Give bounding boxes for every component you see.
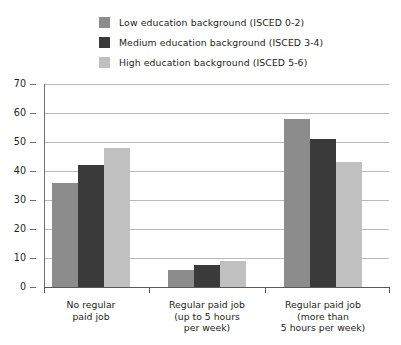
bar-group [52, 84, 130, 287]
legend-swatch-low [99, 17, 110, 28]
bar-group [168, 84, 246, 287]
x-axis-category-line: (up to 5 hours [147, 311, 267, 323]
legend-swatch-medium [99, 37, 110, 48]
x-axis-tick [149, 288, 150, 293]
bar [168, 270, 194, 287]
x-axis-category-line: (more than [263, 311, 383, 323]
bar [78, 165, 104, 287]
x-axis-category-label: Regular paid job(more than5 hours per we… [263, 299, 383, 334]
x-axis-category-line: per week) [147, 322, 267, 334]
bar [104, 148, 130, 287]
y-axis-tick [30, 113, 36, 114]
legend-item: Medium education background (ISCED 3-4) [99, 32, 389, 52]
plot-area [44, 84, 389, 287]
bar [284, 119, 310, 287]
y-axis-tick [30, 84, 36, 85]
x-axis-category-line: Regular paid job [147, 299, 267, 311]
y-axis-tick-label: 60 [0, 108, 26, 118]
y-axis-tick [30, 171, 36, 172]
y-axis-tick-label: 50 [0, 137, 26, 147]
x-axis-category-line: No regular [31, 299, 151, 311]
legend-label-low: Low education background (ISCED 0-2) [119, 17, 304, 28]
legend-swatch-high [99, 57, 110, 68]
x-axis-tick [389, 288, 390, 293]
x-axis-category-label: No regularpaid job [31, 299, 151, 322]
x-axis-tick [265, 288, 266, 293]
y-axis-labels: 706050403020100 [2, 84, 36, 288]
y-axis-line [44, 84, 45, 288]
bar-chart: Low education background (ISCED 0-2) Med… [0, 0, 401, 345]
y-axis-tick [30, 229, 36, 230]
bar [336, 162, 362, 287]
bar [310, 139, 336, 287]
legend-item: Low education background (ISCED 0-2) [99, 12, 389, 32]
x-axis-tick [44, 288, 45, 293]
y-axis-tick-label: 0 [0, 282, 26, 292]
x-axis-category-line: paid job [31, 311, 151, 323]
chart-legend: Low education background (ISCED 0-2) Med… [99, 12, 389, 72]
x-axis-category-label: Regular paid job(up to 5 hoursper week) [147, 299, 267, 334]
x-axis-category-line: Regular paid job [263, 299, 383, 311]
y-axis-tick [30, 142, 36, 143]
y-axis-tick-label: 70 [0, 79, 26, 89]
y-axis-tick-label: 30 [0, 195, 26, 205]
y-axis-tick [30, 258, 36, 259]
y-axis-tick-label: 20 [0, 224, 26, 234]
bar [52, 183, 78, 287]
y-axis-tick-label: 10 [0, 253, 26, 263]
legend-label-high: High education background (ISCED 5-6) [119, 57, 307, 68]
x-axis-category-line: 5 hours per week) [263, 322, 383, 334]
y-axis-tick [30, 200, 36, 201]
bar-group [284, 84, 362, 287]
y-axis-tick-label: 40 [0, 166, 26, 176]
bar [220, 261, 246, 287]
legend-label-medium: Medium education background (ISCED 3-4) [119, 37, 323, 48]
legend-item: High education background (ISCED 5-6) [99, 52, 389, 72]
bar [194, 265, 220, 287]
y-axis-tick [30, 287, 36, 288]
x-axis-line [44, 287, 390, 288]
